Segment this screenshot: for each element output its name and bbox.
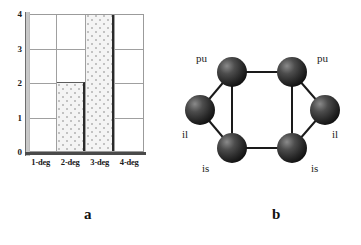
y-axis-line bbox=[25, 12, 30, 156]
graph-node-bottom-left bbox=[217, 133, 247, 163]
label-pu-right: pu bbox=[317, 52, 328, 64]
x-axis-labels: 1-deg 2-deg 3-deg 4-deg bbox=[26, 157, 144, 167]
ytick-label-0: 0 bbox=[18, 148, 23, 157]
x-axis-line bbox=[25, 152, 146, 155]
label-il-right: il bbox=[332, 128, 338, 140]
plot-area bbox=[26, 14, 144, 152]
xlabel-1-deg: 1-deg bbox=[26, 157, 56, 167]
label-pu-left: pu bbox=[196, 52, 207, 64]
category-divider-3 bbox=[114, 15, 115, 151]
panel-b-graph-diagram: pupuililisis b bbox=[180, 0, 361, 245]
panel-a-caption: a bbox=[84, 206, 92, 223]
xlabel-4-deg: 4-deg bbox=[115, 157, 145, 167]
graph-node-bottom-right bbox=[277, 133, 307, 163]
graph-edges bbox=[200, 72, 325, 148]
label-is-right: is bbox=[311, 162, 318, 174]
ytick-label-2: 2 bbox=[18, 79, 23, 88]
label-il-left: il bbox=[182, 128, 188, 140]
bar-2-deg bbox=[57, 82, 85, 151]
bar-chart: 4 3 2 1 0 1-deg bbox=[14, 10, 150, 158]
panel-b-caption: b bbox=[272, 206, 280, 223]
bar-3-deg bbox=[86, 14, 114, 151]
graph-node-right bbox=[310, 95, 340, 125]
ytick-label-1: 1 bbox=[18, 113, 23, 122]
graph-node-left bbox=[185, 95, 215, 125]
ytick-label-4: 4 bbox=[18, 10, 23, 19]
graph-node-top-right bbox=[277, 57, 307, 87]
xlabel-3-deg: 3-deg bbox=[85, 157, 115, 167]
xlabel-2-deg: 2-deg bbox=[56, 157, 86, 167]
graph-node-top-left bbox=[217, 57, 247, 87]
panel-a-bar-chart: 4 3 2 1 0 1-deg bbox=[0, 0, 180, 245]
ytick-label-3: 3 bbox=[18, 44, 23, 53]
label-is-left: is bbox=[202, 162, 209, 174]
